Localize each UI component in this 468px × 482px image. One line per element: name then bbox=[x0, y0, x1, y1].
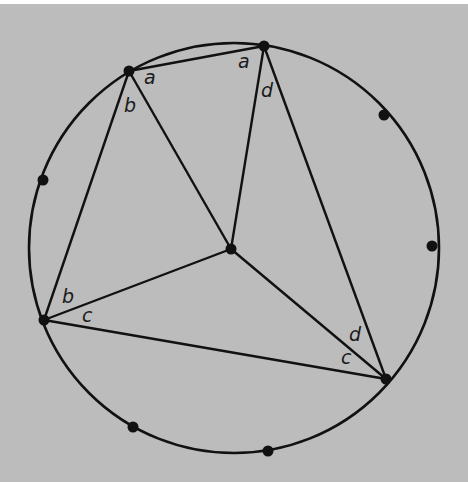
point-E4 bbox=[128, 422, 139, 433]
point-P3 bbox=[39, 315, 50, 326]
point-E5 bbox=[263, 446, 274, 457]
point-P1 bbox=[124, 66, 135, 77]
angle-label-b: b bbox=[124, 94, 136, 116]
segment-P3-P4 bbox=[44, 320, 386, 379]
angle-label-d: d bbox=[261, 79, 274, 101]
point-E2 bbox=[379, 110, 390, 121]
angle-label-a: a bbox=[238, 50, 250, 72]
point-P4 bbox=[381, 374, 392, 385]
segment-P1-O bbox=[129, 71, 231, 249]
point-O bbox=[226, 244, 237, 255]
angle-label-c: c bbox=[341, 346, 352, 368]
circle-diagram: aabdbcdc bbox=[0, 0, 468, 482]
angle-label-a: a bbox=[144, 66, 156, 88]
angle-label-c: c bbox=[82, 304, 93, 326]
point-E3 bbox=[427, 241, 438, 252]
segment-P1-P3 bbox=[44, 71, 129, 320]
angle-label-d: d bbox=[349, 323, 362, 345]
angle-label-b: b bbox=[62, 285, 74, 307]
point-E1 bbox=[38, 175, 49, 186]
point-P2 bbox=[259, 41, 270, 52]
segment-P2-O bbox=[231, 46, 264, 249]
